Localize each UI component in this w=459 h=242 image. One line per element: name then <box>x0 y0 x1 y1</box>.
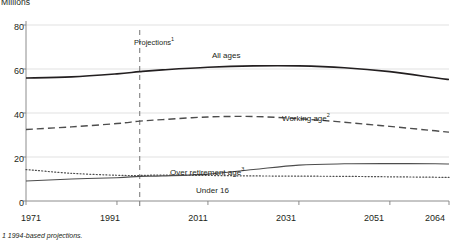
series-label-all-ages: All ages <box>212 51 240 60</box>
x-tick-2011: 2011 <box>178 213 218 223</box>
chart-footnote: 1 1994-based projections. <box>2 232 83 239</box>
y-tick-60: 60 <box>4 66 24 76</box>
y-tick-40: 40 <box>4 110 24 120</box>
y-tick-0: 0 <box>4 198 24 208</box>
x-tick-1971: 1971 <box>11 213 51 223</box>
series-label-working-age: Working age2 <box>282 112 330 123</box>
chart-plot-area <box>0 0 459 242</box>
series-label-working-age-text: Working age <box>282 114 327 123</box>
population-projection-chart: Millions 80 60 40 20 0 1971 1991 2011 20… <box>0 0 459 242</box>
series-line-all-ages <box>26 66 449 80</box>
series-line-working-age <box>26 116 449 132</box>
y-tick-80: 80 <box>4 22 24 32</box>
x-tick-2064: 2064 <box>415 213 455 223</box>
over-retirement-age-footnote-marker: 3 <box>241 166 244 172</box>
working-age-footnote-marker: 2 <box>327 112 330 118</box>
series-label-under-16: Under 16 <box>196 186 229 195</box>
series-label-under-16-text: Under 16 <box>196 186 229 195</box>
x-tick-1991: 1991 <box>90 213 130 223</box>
projections-annotation-text: Projections <box>134 38 171 47</box>
series-label-all-ages-text: All ages <box>212 51 240 60</box>
x-tick-2051: 2051 <box>354 213 394 223</box>
projections-footnote-marker: 1 <box>171 36 174 42</box>
x-tick-2031: 2031 <box>266 213 306 223</box>
series-label-over-retirement-age-text: Over retirement age <box>170 168 241 177</box>
series-label-over-retirement-age: Over retirement age3 <box>170 166 244 177</box>
y-tick-20: 20 <box>4 154 24 164</box>
projections-annotation: Projections1 <box>134 36 174 47</box>
